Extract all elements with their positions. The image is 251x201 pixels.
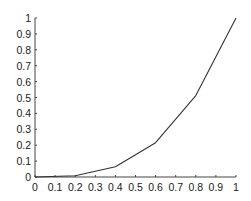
series-line	[35, 18, 236, 177]
y-tick-label: 0.6	[16, 76, 31, 88]
y-tick-label: 0.2	[16, 139, 31, 151]
y-tick-label: 0.5	[16, 92, 31, 104]
y-tick-label: 0.4	[16, 107, 31, 119]
y-tick-label: 1	[25, 12, 31, 24]
data-series	[35, 18, 236, 177]
x-tick-label: 0.5	[128, 181, 143, 193]
y-tick-label: 0	[25, 171, 31, 183]
x-axis-ticks: 00.10.20.30.40.50.60.70.80.91	[32, 175, 239, 193]
x-tick-label: 0	[32, 181, 38, 193]
y-tick-label: 0.1	[16, 155, 31, 167]
x-tick-label: 1	[233, 181, 239, 193]
x-tick-label: 0.6	[148, 181, 163, 193]
axes	[35, 18, 236, 177]
y-tick-label: 0.7	[16, 60, 31, 72]
x-tick-label: 0.8	[188, 181, 203, 193]
x-tick-label: 0.9	[209, 181, 224, 193]
y-tick-label: 0.3	[16, 123, 31, 135]
line-chart: 00.10.20.30.40.50.60.70.80.91 00.10.20.3…	[0, 0, 251, 201]
x-tick-label: 0.3	[88, 181, 103, 193]
y-tick-label: 0.8	[16, 44, 31, 56]
x-tick-label: 0.7	[168, 181, 183, 193]
x-tick-label: 0.1	[48, 181, 63, 193]
y-tick-label: 0.9	[16, 28, 31, 40]
x-tick-label: 0.4	[108, 181, 123, 193]
y-axis-ticks: 00.10.20.30.40.50.60.70.80.91	[16, 12, 37, 183]
x-tick-label: 0.2	[68, 181, 83, 193]
